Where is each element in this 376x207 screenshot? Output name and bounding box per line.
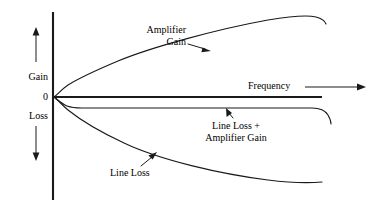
y-axis-loss-label: Loss: [8, 110, 48, 122]
gain-loss-frequency-diagram: Gain 0 Loss Frequency Amplifier Gain Lin…: [0, 0, 376, 207]
line-loss-plus-amplifier-gain-label: Line Loss + Amplifier Gain: [176, 120, 296, 143]
leader-arrow-line-loss: [141, 152, 157, 166]
x-axis-frequency-label: Frequency: [248, 80, 290, 92]
leader-arrow-combined: [226, 108, 233, 118]
origin-zero-label: 0: [8, 91, 48, 103]
leader-arrow-amplifier-gain: [188, 44, 211, 52]
amplifier-gain-label: Amplifier Gain: [104, 24, 186, 47]
right-arrow-icon: [305, 84, 366, 91]
up-arrow-icon: [33, 27, 40, 62]
diagram-canvas: [0, 0, 376, 207]
y-axis-gain-label: Gain: [8, 71, 48, 83]
down-arrow-icon: [33, 126, 40, 161]
line-loss-label: Line Loss: [110, 167, 150, 179]
